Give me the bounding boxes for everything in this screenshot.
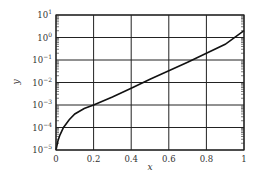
y-tick-label: 10−4 (32, 121, 52, 133)
x-tick-label: 0.6 (162, 154, 176, 164)
x-tick-label: 0.8 (200, 154, 214, 164)
x-tick-label: 0.2 (87, 154, 101, 164)
x-axis-label: x (147, 162, 152, 172)
y-tick-labels: 10110010−110−210−310−410−5 (32, 8, 52, 155)
y-tick-label: 10−1 (32, 53, 52, 65)
grid-lines (56, 15, 244, 150)
y-axis-label: y (11, 79, 21, 86)
y-tick-label: 10−5 (32, 143, 52, 155)
data-curve (56, 31, 244, 150)
y-tick-label: 10−3 (32, 98, 52, 110)
x-tick-label: 1 (241, 154, 246, 164)
y-tick-label: 100 (37, 31, 52, 43)
y-tick-label: 10−2 (32, 76, 52, 88)
x-tick-label: 0.4 (124, 154, 138, 164)
y-tick-label: 101 (37, 8, 52, 20)
line-chart: 10110010−110−210−310−410−5 00.20.40.60.8… (0, 0, 258, 187)
x-tick-label: 0 (53, 154, 58, 164)
